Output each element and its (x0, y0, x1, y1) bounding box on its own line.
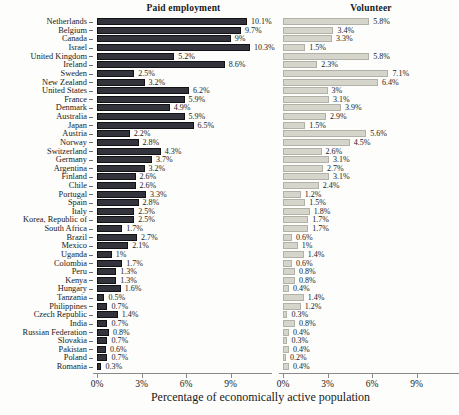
paid-bar (97, 303, 107, 310)
x-axis-tick (97, 374, 98, 378)
paid-bar (97, 234, 137, 241)
volunteer-bar (283, 156, 329, 163)
volunteer-bar (283, 173, 329, 180)
x-axis-line-left (93, 373, 272, 374)
y-axis-tick (89, 142, 93, 143)
volunteer-bar (283, 251, 304, 258)
x-axis-tick-label: 6% (358, 379, 386, 389)
volunteer-bar (283, 191, 301, 198)
volunteer-value-label: 1.5% (309, 122, 326, 129)
dual-panel-bar-chart: Paid employment Volunteer Netherlands10.… (0, 0, 459, 415)
y-axis-tick (89, 358, 93, 359)
paid-bar (97, 208, 134, 215)
volunteer-bar (283, 96, 329, 103)
paid-value-label: 0.3% (105, 363, 122, 370)
volunteer-value-label: 3.4% (337, 27, 354, 34)
x-axis-tick-label: 3% (128, 379, 156, 389)
x-axis-tick-label: 3% (314, 379, 342, 389)
x-axis-label: Percentage of economically active popula… (62, 390, 459, 405)
paid-bar (97, 18, 247, 25)
volunteer-value-label: 5.8% (373, 18, 390, 25)
paid-bar (97, 242, 128, 249)
volunteer-value-label: 5.6% (370, 130, 387, 137)
paid-value-label: 10.1% (251, 18, 272, 25)
volunteer-value-label: 1.5% (309, 44, 326, 51)
y-axis-tick (89, 306, 93, 307)
paid-value-label: 0.7% (111, 337, 128, 344)
volunteer-value-label: 1.4% (308, 294, 325, 301)
volunteer-value-label: 0.4% (293, 329, 310, 336)
paid-value-label: 8.6% (229, 61, 246, 68)
paid-bar (97, 27, 241, 34)
y-axis-tick (89, 99, 93, 100)
y-axis-tick (89, 186, 93, 187)
y-axis-tick (89, 341, 93, 342)
y-axis-tick (89, 203, 93, 204)
volunteer-bar (283, 354, 286, 361)
paid-value-label: 3.7% (156, 156, 173, 163)
volunteer-bar (283, 199, 305, 206)
volunteer-bar (283, 53, 369, 60)
paid-bar (97, 294, 104, 301)
y-axis-tick (89, 349, 93, 350)
volunteer-value-label: 0.8% (299, 320, 316, 327)
paid-value-label: 4.9% (174, 104, 191, 111)
volunteer-bar (283, 182, 319, 189)
y-axis-tick (89, 117, 93, 118)
volunteer-value-label: 1.8% (314, 208, 331, 215)
x-axis-tick-label: 6% (172, 379, 200, 389)
y-axis-tick (89, 125, 93, 126)
paid-value-label: 6.5% (198, 122, 215, 129)
y-axis-tick (89, 272, 93, 273)
paid-value-label: 5.2% (178, 53, 195, 60)
paid-bar (97, 96, 185, 103)
paid-bar (97, 268, 116, 275)
volunteer-value-label: 2.9% (330, 113, 347, 120)
x-axis-tick-label: 9% (217, 379, 245, 389)
volunteer-bar (283, 363, 289, 370)
y-axis-tick (89, 315, 93, 316)
paid-value-label: 2.5% (138, 70, 155, 77)
volunteer-bar (283, 61, 317, 68)
paid-bar (97, 216, 134, 223)
volunteer-value-label: 3.1% (333, 96, 350, 103)
volunteer-bar (283, 329, 289, 336)
volunteer-value-label: 3.9% (345, 104, 362, 111)
volunteer-value-label: 0.3% (291, 311, 308, 318)
paid-bar (97, 139, 139, 146)
volunteer-bar (283, 70, 388, 77)
paid-bar (97, 148, 161, 155)
paid-bar (97, 285, 121, 292)
paid-bar (97, 311, 118, 318)
volunteer-value-label: 1.5% (309, 199, 326, 206)
paid-value-label: 2.5% (138, 216, 155, 223)
volunteer-bar (283, 44, 305, 51)
volunteer-value-label: 2.4% (323, 182, 340, 189)
paid-bar (97, 122, 194, 129)
volunteer-bar (283, 208, 310, 215)
y-axis-tick (89, 280, 93, 281)
y-axis-tick (89, 48, 93, 49)
volunteer-value-label: 0.4% (293, 285, 310, 292)
paid-value-label: 1.7% (126, 260, 143, 267)
y-axis-tick (89, 246, 93, 247)
y-axis-tick (89, 65, 93, 66)
paid-value-label: 9.7% (245, 27, 262, 34)
paid-value-label: 1.4% (122, 311, 139, 318)
paid-value-label: 1% (116, 251, 127, 258)
y-axis-tick (89, 22, 93, 23)
volunteer-bar (283, 277, 295, 284)
paid-bar (97, 277, 116, 284)
x-axis-tick-label: 0% (269, 379, 297, 389)
paid-bar (97, 225, 122, 232)
x-axis-tick-label: 0% (83, 379, 111, 389)
y-axis-tick (89, 220, 93, 221)
paid-bar (97, 79, 145, 86)
volunteer-bar (283, 311, 287, 318)
y-axis-tick (89, 151, 93, 152)
y-axis-tick (89, 255, 93, 256)
paid-value-label: 0.5% (108, 294, 125, 301)
volunteer-bar (283, 122, 305, 129)
y-axis-tick (89, 324, 93, 325)
volunteer-value-label: 7.1% (392, 70, 409, 77)
